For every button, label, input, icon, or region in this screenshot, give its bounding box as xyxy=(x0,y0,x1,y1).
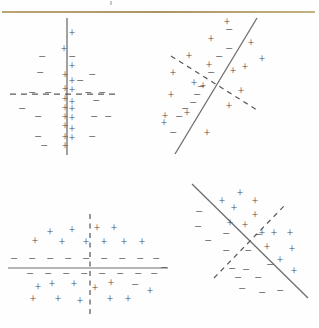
marker-negative: − xyxy=(225,22,232,37)
marker-negative: − xyxy=(254,227,261,242)
marker-negative: − xyxy=(242,262,249,277)
marker-positive: + xyxy=(32,235,39,247)
marker-negative: − xyxy=(266,257,273,272)
scatter-plot-bottom-left: +++++++++++++++++++++−−−−−−−−−−−−−−−−−− xyxy=(0,180,170,328)
marker-positive: + xyxy=(61,43,68,55)
marker-negative: − xyxy=(40,138,47,153)
marker-negative: − xyxy=(222,226,229,241)
marker-negative: − xyxy=(34,109,41,124)
marker-positive: + xyxy=(147,285,154,297)
marker-positive: + xyxy=(125,293,132,305)
marker-negative: − xyxy=(98,266,105,281)
marker-negative: − xyxy=(82,251,89,266)
marker-positive: + xyxy=(59,236,66,248)
marker-negative: − xyxy=(276,283,283,298)
marker-positive: + xyxy=(277,254,284,266)
markers-top-left: ++++++++++++++++++−−−−−−−−−−−−−−−−− xyxy=(18,27,111,153)
marker-negative: − xyxy=(189,95,196,110)
marker-positive: + xyxy=(83,236,90,248)
panel-bottom-left: +++++++++++++++++++++−−−−−−−−−−−−−−−−−− xyxy=(0,180,170,328)
marker-negative: − xyxy=(10,251,17,266)
marker-negative: − xyxy=(175,109,182,124)
marker-positive: + xyxy=(69,132,76,144)
marker-positive: + xyxy=(259,53,266,65)
marker-positive: + xyxy=(204,127,211,139)
marker-positive: + xyxy=(69,27,76,39)
marker-positive: + xyxy=(168,89,175,101)
marker-positive: + xyxy=(35,281,42,293)
markers-top-right: ++++++++++++++++++−−−−−−−−−− xyxy=(161,16,266,140)
rising-dashed-boundary xyxy=(214,204,286,278)
marker-positive: + xyxy=(287,227,294,239)
marker-positive: + xyxy=(62,69,69,81)
marker-positive: + xyxy=(242,61,249,73)
marker-negative: − xyxy=(254,270,261,285)
marker-positive: + xyxy=(237,187,244,199)
marker-positive: + xyxy=(219,195,226,207)
scatter-plot-bottom-right: ++++++++++++++−−−−−−−−−−−−−−−− xyxy=(162,180,319,328)
marker-negative: − xyxy=(68,49,75,64)
marker-negative: − xyxy=(88,67,95,82)
marker-negative: − xyxy=(46,251,53,266)
marker-positive: + xyxy=(71,278,78,290)
marker-positive: + xyxy=(248,37,255,49)
marker-negative: − xyxy=(238,281,245,296)
marker-positive: + xyxy=(69,84,76,96)
panel-top-left: ++++++++++++++++++−−−−−−−−−−−−−−−−− xyxy=(0,14,160,180)
marker-negative: − xyxy=(84,85,91,100)
marker-negative: − xyxy=(194,219,201,234)
marker-positive: + xyxy=(231,202,238,214)
marker-positive: + xyxy=(121,236,128,248)
marker-negative: − xyxy=(225,41,232,56)
panel-bottom-right: ++++++++++++++−−−−−−−−−−−−−−−− xyxy=(162,180,319,328)
marker-positive: + xyxy=(226,100,233,112)
panel-top-right: ++++++++++++++++++−−−−−−−−−− xyxy=(159,14,319,180)
marker-negative: − xyxy=(92,93,99,108)
marker-positive: + xyxy=(264,241,271,253)
marker-positive: + xyxy=(161,117,168,129)
scatter-plot-top-right: ++++++++++++++++++−−−−−−−−−− xyxy=(159,14,319,180)
marker-negative: − xyxy=(90,109,97,124)
header-rule-divider xyxy=(2,11,315,13)
marker-negative: − xyxy=(195,204,202,219)
marker-positive: + xyxy=(208,33,215,45)
markers-bottom-left: +++++++++++++++++++++−−−−−−−−−−−−−−−−−− xyxy=(10,222,159,307)
marker-negative: − xyxy=(88,129,95,144)
marker-positive: + xyxy=(289,243,296,255)
marker-positive: + xyxy=(252,195,259,207)
marker-positive: + xyxy=(108,277,115,289)
marker-positive: + xyxy=(107,293,114,305)
marker-negative: − xyxy=(150,266,157,281)
marker-negative: − xyxy=(169,125,176,140)
figure-root: ++++++++++++++++++−−−−−−−−−−−−−−−−− ++++… xyxy=(0,0,319,328)
marker-positive: + xyxy=(252,209,259,221)
marker-negative: − xyxy=(76,73,83,88)
marker-negative: − xyxy=(80,266,87,281)
marker-negative: − xyxy=(215,49,222,64)
marker-negative: − xyxy=(28,251,35,266)
marker-positive: + xyxy=(77,295,84,307)
marker-positive: + xyxy=(242,219,249,231)
marker-positive: + xyxy=(101,236,108,248)
marker-negative: − xyxy=(258,285,265,300)
marker-positive: + xyxy=(291,265,298,277)
scatter-plot-top-left: ++++++++++++++++++−−−−−−−−−−−−−−−−− xyxy=(0,14,160,180)
marker-negative: − xyxy=(152,251,159,266)
marker-negative: − xyxy=(44,85,51,100)
marker-positive: + xyxy=(55,293,62,305)
marker-negative: − xyxy=(26,266,33,281)
marker-positive: + xyxy=(230,65,237,77)
marker-negative: − xyxy=(38,49,45,64)
marker-negative: − xyxy=(44,266,51,281)
marker-negative: − xyxy=(222,243,229,258)
marker-positive: + xyxy=(94,222,101,234)
marker-positive: + xyxy=(139,236,146,248)
marker-negative: − xyxy=(62,266,69,281)
marker-positive: + xyxy=(170,67,177,79)
marker-negative: − xyxy=(116,266,123,281)
markers-bottom-right: ++++++++++++++−−−−−−−−−−−−−−−− xyxy=(160,187,297,300)
marker-negative: − xyxy=(18,101,25,116)
page-speck-mark xyxy=(110,1,112,5)
marker-positive: + xyxy=(92,282,99,294)
marker-negative: − xyxy=(207,65,214,80)
